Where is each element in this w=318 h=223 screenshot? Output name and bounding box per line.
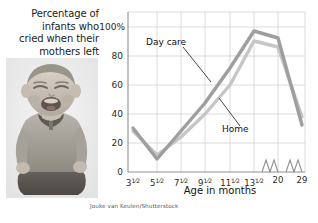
y-tick-label-40: 40 bbox=[93, 110, 123, 119]
series-label-daycare: Day care bbox=[146, 37, 186, 47]
x-axis-title: Age in months bbox=[150, 185, 290, 196]
y-tick-label-80: 80 bbox=[93, 52, 123, 61]
y-tick-label-20: 20 bbox=[93, 139, 123, 148]
y-tick-label-100: 100% bbox=[93, 23, 125, 32]
x-tick-label-7: 29 bbox=[287, 176, 317, 185]
photo-credit: Jouke van Keulen/Shutterstock bbox=[90, 203, 178, 209]
y-tick-label-60: 60 bbox=[93, 81, 123, 90]
series-label-home: Home bbox=[222, 124, 249, 134]
figure-container: Percentage of infants who cried when the… bbox=[0, 0, 318, 223]
